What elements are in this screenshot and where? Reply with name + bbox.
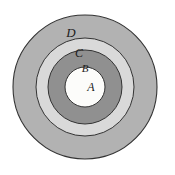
venn-diagram-canvas: D C B A	[0, 0, 175, 175]
concentric-circle-diagram: D C B A	[0, 0, 175, 175]
region-label-b: B	[82, 62, 89, 74]
region-label-d: D	[65, 25, 76, 40]
region-label-a: A	[86, 80, 95, 94]
region-label-c: C	[75, 46, 84, 60]
